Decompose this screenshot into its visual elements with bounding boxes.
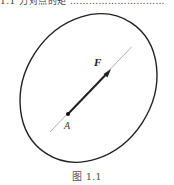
point-label: A [64,120,70,131]
force-label: F [94,56,101,68]
application-point-A [66,112,70,116]
force-diagram [0,0,174,185]
figure-caption: 图 1.1 [0,168,174,183]
force-vector-shaft [68,75,106,115]
rigid-body-outline [0,0,174,185]
